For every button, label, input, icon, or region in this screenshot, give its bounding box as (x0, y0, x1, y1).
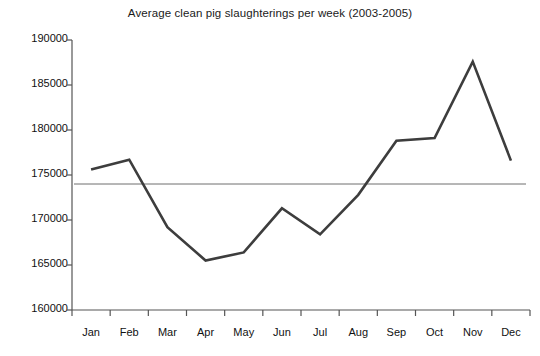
chart-screenshot: Average clean pig slaughterings per week… (0, 0, 540, 356)
x-axis-tick-label: Dec (488, 326, 534, 338)
y-axis-ticks (67, 40, 72, 310)
chart-canvas (0, 0, 540, 356)
x-axis-tick-labels: JanFebMarAprMayJunJulAugSepOctNovDec (72, 326, 530, 348)
data-line-slaughterings (91, 62, 511, 261)
x-axis-ticks (72, 310, 530, 316)
